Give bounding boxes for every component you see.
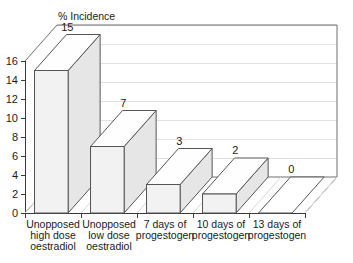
category-label: Unopposedhigh doseoestradiol: [26, 218, 80, 252]
category-labels: Unopposedhigh doseoestradiolUnopposedlow…: [26, 218, 306, 252]
y-axis-ticks: 0246810121416: [6, 55, 25, 219]
category-label: 13 days ofprogestogen: [248, 218, 307, 241]
y-tick-label: 8: [12, 131, 18, 143]
y-tick-label: 10: [6, 112, 18, 124]
category-label: 7 days ofprogestogen: [136, 218, 195, 241]
category-label: Unopposedlow doseoestradiol: [82, 218, 136, 252]
category-label: 10 days ofprogestogen: [192, 218, 251, 241]
y-tick-label: 16: [6, 55, 18, 67]
y-tick-label: 14: [6, 74, 18, 86]
incidence-bar-chart: 0246810121416 157320 % Incidence Unoppos…: [0, 0, 353, 263]
bar-value-label: 2: [232, 144, 238, 156]
y-tick-label: 12: [6, 93, 18, 105]
bar-zero-footprint: [259, 177, 325, 213]
chart-title: % Incidence: [58, 10, 115, 22]
bar-front-face: [147, 185, 181, 214]
bar-5: [259, 177, 325, 213]
bar-value-label: 0: [288, 163, 294, 175]
bar-front-face: [35, 71, 69, 214]
y-tick-label: 0: [12, 207, 18, 219]
bar-value-label: 7: [120, 97, 126, 109]
y-tick-label: 6: [12, 150, 18, 162]
bar-value-label: 15: [61, 21, 73, 33]
bar-value-label: 3: [176, 135, 182, 147]
bar-front-face: [91, 147, 125, 214]
y-tick-label: 4: [12, 169, 18, 181]
chart-container: 0246810121416 157320 % Incidence Unoppos…: [0, 0, 353, 263]
y-tick-label: 2: [12, 188, 18, 200]
bar-front-face: [203, 194, 237, 213]
